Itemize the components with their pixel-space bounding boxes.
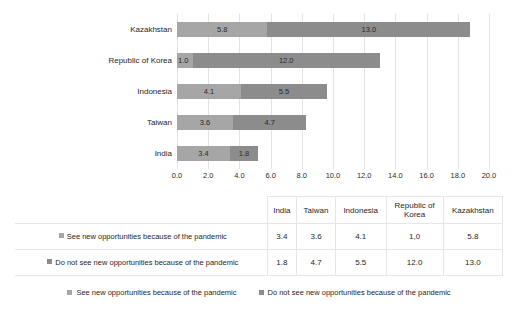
legend-item[interactable]: Do not see new opportunities because of …: [259, 288, 451, 297]
x-axis-tick-label: 2.0: [203, 171, 213, 180]
x-axis-tick-label: 8.0: [297, 171, 307, 180]
stacked-bar-chart: KazakhstanRepublic of KoreaIndonesiaTaiw…: [0, 0, 518, 190]
bar-row: 5.813.0: [177, 22, 470, 37]
table-body: See new opportunities because of the pan…: [15, 224, 503, 276]
x-axis-tick-label: 12.0: [357, 171, 372, 180]
bar-value-label: 3.6: [200, 118, 210, 127]
gridline: [489, 14, 490, 169]
bar-row: 3.41.8: [177, 146, 258, 161]
table-row-label: Do not see new opportunities because of …: [15, 250, 267, 276]
bar-value-label: 4.7: [265, 118, 275, 127]
category-label: Republic of Korea: [52, 53, 172, 68]
table-column-header: Indonesia: [335, 197, 386, 224]
table-cell-value: 13.0: [443, 250, 502, 276]
bar-value-label: 12.0: [279, 56, 294, 65]
bar-segment: 13.0: [267, 22, 470, 37]
bar-segment: 5.8: [177, 22, 267, 37]
bar-row: 4.15.5: [177, 84, 327, 99]
table-cell-value: 3.4: [267, 224, 297, 250]
category-label: Taiwan: [52, 115, 172, 130]
category-label: Indonesia: [52, 84, 172, 99]
legend-label: Do not see new opportunities because of …: [268, 288, 451, 297]
x-axis-tick-label: 10.0: [326, 171, 341, 180]
table-corner-cell: [15, 197, 267, 224]
bar-segment: 3.4: [177, 146, 230, 161]
table-column-header: India: [267, 197, 297, 224]
bar-segment: 1.0: [177, 53, 193, 68]
x-axis-tick-label: 14.0: [388, 171, 403, 180]
category-label: India: [52, 146, 172, 161]
chart-bars-group: 5.813.01.012.04.15.53.64.73.41.8: [177, 14, 489, 169]
series-swatch-icon: [59, 233, 64, 238]
legend-swatch-icon: [259, 290, 264, 295]
chart-value-axis: 0.02.04.06.08.010.012.014.016.018.020.0: [177, 171, 489, 185]
bar-value-label: 1.0: [178, 56, 188, 65]
category-label: Kazakhstan: [52, 22, 172, 37]
bar-row: 1.012.0: [177, 53, 380, 68]
table-cell-value: 4.7: [297, 250, 336, 276]
table-cell-value: 1,0: [386, 224, 443, 250]
bar-segment: 4.7: [233, 115, 306, 130]
bar-segment: 5.5: [241, 84, 327, 99]
table-column-header: Republic ofKorea: [386, 197, 443, 224]
x-axis-tick-label: 0.0: [172, 171, 182, 180]
table-row-label: See new opportunities because of the pan…: [15, 224, 267, 250]
table-cell-value: 4.1: [335, 224, 386, 250]
table-row: See new opportunities because of the pan…: [15, 224, 503, 250]
bar-segment: 4.1: [177, 84, 241, 99]
bar-value-label: 5.5: [279, 87, 289, 96]
bar-row: 3.64.7: [177, 115, 306, 130]
x-axis-tick-label: 18.0: [450, 171, 465, 180]
table-column-header: Kazakhstan: [443, 197, 502, 224]
x-axis-tick-label: 4.0: [234, 171, 244, 180]
chart-legend: See new opportunities because of the pan…: [0, 288, 518, 297]
bar-value-label: 13.0: [362, 25, 377, 34]
x-axis-tick-label: 6.0: [265, 171, 275, 180]
legend-swatch-icon: [67, 290, 72, 295]
table-header-row: IndiaTaiwanIndonesiaRepublic ofKoreaKaza…: [15, 197, 503, 224]
table-cell-value: 5.8: [443, 224, 502, 250]
table-header: IndiaTaiwanIndonesiaRepublic ofKoreaKaza…: [15, 197, 503, 224]
legend-label: See new opportunities because of the pan…: [76, 288, 236, 297]
table-cell-value: 3.6: [297, 224, 336, 250]
data-table: IndiaTaiwanIndonesiaRepublic ofKoreaKaza…: [15, 196, 503, 276]
legend-item[interactable]: See new opportunities because of the pan…: [67, 288, 236, 297]
bar-value-label: 3.4: [198, 149, 208, 158]
series-swatch-icon: [47, 259, 52, 264]
bar-value-label: 4.1: [204, 87, 214, 96]
chart-category-axis: KazakhstanRepublic of KoreaIndonesiaTaiw…: [50, 14, 172, 169]
table-column-header: Taiwan: [297, 197, 336, 224]
table-cell-value: 5.5: [335, 250, 386, 276]
bar-value-label: 5.8: [217, 25, 227, 34]
chart-plot-area: 5.813.01.012.04.15.53.64.73.41.8: [177, 14, 489, 169]
bar-segment: 3.6: [177, 115, 233, 130]
table-row: Do not see new opportunities because of …: [15, 250, 503, 276]
x-axis-tick-label: 16.0: [419, 171, 434, 180]
bar-segment: 1.8: [230, 146, 258, 161]
table-cell-value: 1.8: [267, 250, 297, 276]
bar-segment: 12.0: [193, 53, 380, 68]
bar-value-label: 1.8: [239, 149, 249, 158]
x-axis-tick-label: 20.0: [482, 171, 497, 180]
table-cell-value: 12.0: [386, 250, 443, 276]
